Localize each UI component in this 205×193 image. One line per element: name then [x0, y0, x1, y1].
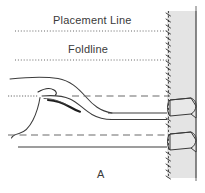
placement-line-label: Placement Line: [53, 14, 132, 26]
diagram-canvas: [0, 0, 205, 193]
figure-caption: A: [97, 168, 105, 180]
thread-hook-arrow: [38, 89, 56, 95]
technical-sewing-diagram: Placement Line Foldline A: [0, 0, 205, 193]
upper-loop-body: [170, 98, 196, 118]
lower-loop-body: [170, 132, 196, 152]
left-turnback-curl: [12, 98, 41, 139]
upper-loop: [168, 98, 197, 118]
upper-fold-outer-contour: [10, 77, 112, 113]
vertical-band: [167, 11, 196, 178]
lower-loop: [168, 132, 197, 152]
foldline-label: Foldline: [68, 43, 108, 55]
